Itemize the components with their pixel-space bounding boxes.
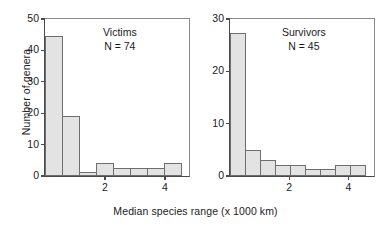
plot-area-victims: Victims N = 74 0102030405024 <box>44 18 190 177</box>
x-tick-mark <box>348 176 349 180</box>
x-tick-label: 4 <box>337 181 361 194</box>
plot-area-survivors: Survivors N = 45 010203024 <box>229 18 375 177</box>
histogram-bar <box>164 163 182 176</box>
y-tick-mark <box>226 71 230 72</box>
panel-title-survivors: Survivors <box>282 25 326 39</box>
y-tick-label: 40 <box>27 43 39 56</box>
histogram-bar <box>230 33 246 176</box>
x-tick-mark <box>164 176 165 180</box>
panel-annotation-victims: Victims N = 74 <box>103 25 137 53</box>
histogram-bar <box>350 165 366 177</box>
y-tick-mark <box>41 81 45 82</box>
y-tick-label: 0 <box>33 169 39 182</box>
y-tick-mark <box>41 113 45 114</box>
histogram-bar <box>147 168 165 176</box>
panel-title-victims: Victims <box>103 25 137 39</box>
histogram-bar <box>320 169 336 176</box>
histogram-bar <box>335 165 351 177</box>
x-tick-mark <box>104 176 105 180</box>
histogram-bar <box>290 165 306 177</box>
histogram-bar <box>245 150 261 176</box>
histogram-bar <box>130 168 148 176</box>
y-tick-label: 30 <box>27 75 39 88</box>
y-tick-mark <box>41 50 45 51</box>
y-tick-label: 20 <box>27 106 39 119</box>
y-tick-label: 50 <box>27 12 39 25</box>
panel-annotation-survivors: Survivors N = 45 <box>282 25 326 53</box>
y-tick-mark <box>41 175 45 176</box>
y-tick-mark <box>226 123 230 124</box>
histogram-bar <box>79 172 97 176</box>
histogram-bar <box>113 168 131 176</box>
histogram-bar <box>260 160 276 176</box>
panel-sample-size-victims: N = 74 <box>103 39 137 53</box>
x-tick-label: 2 <box>93 181 117 194</box>
histogram-bar <box>45 36 63 176</box>
y-tick-mark <box>226 175 230 176</box>
y-tick-label: 10 <box>212 117 224 130</box>
panel-survivors: Survivors N = 45 010203024 <box>229 18 375 177</box>
y-tick-label: 10 <box>27 138 39 151</box>
histogram-bar <box>305 169 321 176</box>
panel-sample-size-survivors: N = 45 <box>282 39 326 53</box>
x-axis-label: Median species range (x 1000 km) <box>0 205 391 217</box>
y-tick-label: 20 <box>212 64 224 77</box>
y-tick-label: 0 <box>218 169 224 182</box>
x-tick-label: 4 <box>153 181 177 194</box>
y-tick-mark <box>41 18 45 19</box>
x-tick-label: 2 <box>277 181 301 194</box>
y-tick-mark <box>226 18 230 19</box>
figure: Number of genera Victims N = 74 01020304… <box>0 0 391 229</box>
y-tick-mark <box>41 144 45 145</box>
x-tick-mark <box>289 176 290 180</box>
histogram-bar <box>275 165 291 177</box>
histogram-bar <box>96 163 114 176</box>
histogram-bar <box>62 116 80 176</box>
y-tick-label: 30 <box>212 12 224 25</box>
panel-victims: Victims N = 74 0102030405024 <box>44 18 190 177</box>
